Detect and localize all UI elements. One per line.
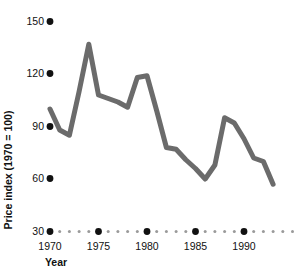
- chart-canvas: 150 120 90 60 30: [0, 0, 306, 273]
- x-tick-dot-1975: [95, 228, 102, 235]
- y-tick-label-150: 150: [26, 15, 44, 27]
- x-axis-minor-dots: [58, 230, 294, 233]
- y-tick-label-30: 30: [32, 225, 44, 237]
- y-tick-dot-120: [47, 70, 54, 77]
- x-tick-label-1985: 1985: [184, 240, 208, 252]
- data-series-line: [50, 44, 273, 184]
- y-tick-label-120: 120: [26, 67, 44, 79]
- x-tick-dot-1980: [144, 228, 151, 235]
- y-tick-dot-60: [47, 175, 54, 182]
- x-tick-label-1970: 1970: [38, 240, 62, 252]
- x-tick-label-1980: 1980: [135, 240, 159, 252]
- y-tick-dot-90: [47, 123, 54, 130]
- x-tick-dot-1990: [241, 228, 248, 235]
- x-axis-title: Year: [45, 256, 67, 268]
- y-tick-dot-30: [47, 228, 54, 235]
- x-tick-label-1990: 1990: [232, 240, 256, 252]
- y-tick-label-90: 90: [32, 120, 44, 132]
- x-tick-label-1975: 1975: [87, 240, 111, 252]
- x-tick-dot-1985: [192, 228, 199, 235]
- y-tick-dot-150: [47, 18, 54, 25]
- y-axis-title: Price index (1970 = 100): [2, 111, 14, 230]
- y-tick-label-60: 60: [32, 172, 44, 184]
- line-chart: 150 120 90 60 30: [0, 0, 306, 273]
